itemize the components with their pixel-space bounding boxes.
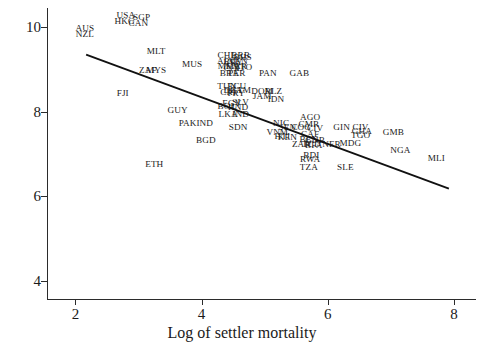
x-tick-label: 4 xyxy=(198,307,206,322)
data-point-label: PAK xyxy=(179,120,197,129)
x-tick-label: 6 xyxy=(324,307,332,322)
y-tick-label: 8 xyxy=(34,104,42,119)
x-tick-label: 2 xyxy=(72,307,80,322)
data-point-label: MDG xyxy=(340,139,362,148)
y-tick-label: 4 xyxy=(34,273,42,288)
data-point-label: CAN xyxy=(129,19,149,28)
data-point-label: NZL xyxy=(76,30,94,39)
data-point-labels: AUSNZLUSASGPHKGCANMLTMUSZAFMYSFJIGUYPAKI… xyxy=(47,8,476,300)
data-point-label: SDN xyxy=(229,123,248,132)
data-point-label: IND xyxy=(232,110,249,119)
data-point-label: IND xyxy=(196,120,213,129)
data-point-label: SLE xyxy=(337,163,354,172)
y-tick-label: 10 xyxy=(26,20,41,35)
data-point-label: BGD xyxy=(196,137,216,146)
data-point-label: TZA xyxy=(300,163,318,172)
data-point-label: NGA xyxy=(390,147,410,156)
data-point-label: MLT xyxy=(147,47,166,56)
plot-area: 46810 2468 AUSNZLUSASGPHKGCANMLTMUSZAFMY… xyxy=(47,8,476,300)
data-point-label: IDN xyxy=(268,95,285,104)
y-tick-label: 6 xyxy=(34,189,42,204)
x-tick-label: 8 xyxy=(450,307,458,322)
data-point-label: PAN xyxy=(259,70,277,79)
scatter-plot-figure: 46810 2468 AUSNZLUSASGPHKGCANMLTMUSZAFMY… xyxy=(0,0,484,361)
data-point-label: ETH xyxy=(145,160,163,169)
data-point-label: FJI xyxy=(117,89,129,98)
data-point-label: GAB xyxy=(289,70,309,79)
data-point-label: MYS xyxy=(146,67,166,76)
data-point-label: MUS xyxy=(182,61,202,70)
data-point-label: GUY xyxy=(167,106,187,115)
data-point-label: GMB xyxy=(383,128,404,137)
data-point-label: MLI xyxy=(428,154,445,163)
data-point-label: NER xyxy=(322,140,341,149)
x-axis-label: Log of settler mortality xyxy=(0,324,484,342)
data-point-label: GIN xyxy=(333,123,350,132)
data-point-label: PER xyxy=(228,70,245,79)
